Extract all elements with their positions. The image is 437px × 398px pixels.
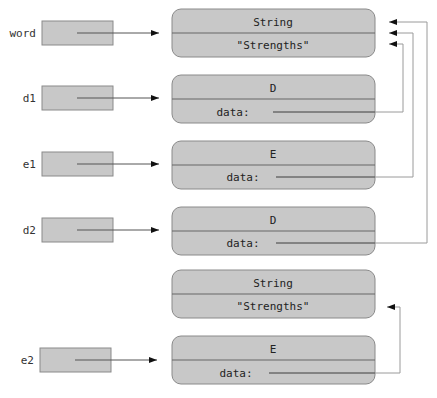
object-type-label: String [253,277,293,290]
object-string-1: String "Strengths" [172,9,375,57]
object-field-label: data: [226,237,259,250]
object-string-2: String "Strengths" [172,270,375,318]
object-field-value: "Strengths" [237,300,310,313]
variable-label-d2: d2 [23,224,36,237]
variable-e2: e2 [21,348,157,372]
variable-e1: e1 [23,152,159,176]
object-field-label: data: [216,106,249,119]
object-type-label: D [270,214,277,227]
object-field-value: "Strengths" [237,39,310,52]
variable-label-word: word [10,27,37,40]
object-d-2: D data: [172,207,375,255]
object-type-label: D [270,82,277,95]
object-field-label: data: [219,367,252,380]
variable-d2: d2 [23,218,159,242]
object-field-label: data: [226,171,259,184]
variable-word: word [10,21,160,45]
variable-label-d1: d1 [23,92,36,105]
variable-label-e2: e2 [21,354,34,367]
variable-label-e1: e1 [23,158,36,171]
object-type-label: E [270,148,277,161]
object-e-1: E data: [172,141,375,189]
object-e-2: E data: [172,336,375,384]
reference-diagram: word d1 e1 d2 e2 String "Strengths" D [0,0,437,398]
object-type-label: E [270,343,277,356]
variable-d1: d1 [23,86,159,110]
object-type-label: String [253,16,293,29]
object-d-1: D data: [172,75,375,123]
